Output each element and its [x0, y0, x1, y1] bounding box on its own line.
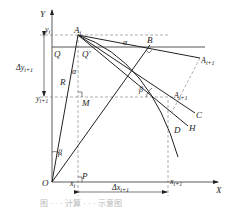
tick-x-i: xi	[69, 179, 76, 189]
point-d: D	[173, 125, 181, 135]
angle-alpha-mid: α	[72, 67, 77, 76]
point-q-prime: Q'	[82, 49, 91, 59]
point-a-next-lower: Ai+1	[173, 91, 188, 101]
point-h: H	[188, 123, 196, 133]
right-angle-marks	[78, 50, 152, 182]
point-q: Q	[54, 49, 61, 59]
delta-y-label: Δyi+1	[15, 63, 33, 73]
tick-y-next: yi+1	[35, 94, 48, 104]
angle-beta-bottom: β	[57, 148, 62, 157]
angle-alpha-top: α	[123, 38, 128, 47]
point-a-i: Ai	[73, 25, 82, 36]
arc-curve-D	[78, 35, 178, 157]
o-to-b-line	[52, 45, 150, 182]
y-axis-label: Y	[40, 9, 46, 19]
point-b: B	[147, 35, 153, 45]
delta-x-label: Δxi+1	[111, 183, 129, 193]
construction-lines	[52, 35, 200, 182]
axes	[52, 10, 218, 182]
a-i-to-h-line	[78, 35, 188, 126]
angle-beta-right: β	[138, 85, 143, 94]
point-r: R	[59, 77, 66, 87]
point-a-next-upper: Ai+1	[200, 56, 215, 66]
dimension-arrows	[44, 36, 167, 192]
tick-x-next: xi+1	[169, 177, 182, 187]
point-m: M	[81, 98, 90, 108]
origin-label: O	[42, 178, 49, 188]
a-next-connector	[172, 58, 200, 112]
point-c: C	[196, 110, 203, 120]
point-p: P	[81, 171, 88, 181]
figure-caption: 图 · · · 计算 · · · 示意图	[40, 198, 122, 208]
x-axis-label: X	[215, 185, 222, 195]
geometry-diagram: Y X O yi yi+1 xi xi+1 Δyi+1 Δxi+1 Ai B A…	[0, 0, 232, 210]
tick-y-i: yi	[44, 25, 51, 35]
